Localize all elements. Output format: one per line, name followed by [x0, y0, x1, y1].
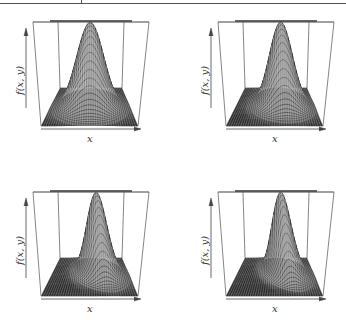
y-axis-label: f(x, y): [199, 236, 210, 265]
surface-plot-1: f(x, y) x: [0, 0, 173, 161]
x-axis-label: x: [87, 303, 93, 314]
x-axis-label: x: [272, 303, 278, 314]
x-axis-label: x: [87, 133, 93, 144]
surface-plot-3: f(x, y) x: [0, 170, 173, 322]
surface-plot-4: f(x, y) x: [185, 170, 346, 322]
x-axis-label: x: [272, 133, 278, 144]
y-axis-label: f(x, y): [14, 66, 25, 95]
surface-plot-2: f(x, y) x: [185, 0, 346, 161]
surface-wireframe: [0, 170, 173, 322]
y-axis-label: f(x, y): [14, 236, 25, 265]
y-axis-label: f(x, y): [199, 66, 210, 95]
